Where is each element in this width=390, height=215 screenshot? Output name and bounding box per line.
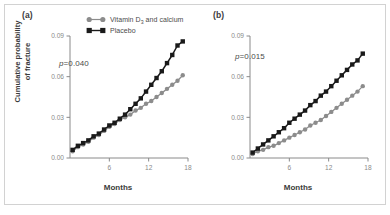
p-value-annotation-a: p=0.040 xyxy=(59,59,89,68)
legend-label-vitamin-d: Vitamin D3 and calcium xyxy=(110,16,184,23)
svg-text:0.03: 0.03 xyxy=(231,114,244,121)
x-axis-label-b: Months xyxy=(268,183,328,192)
svg-text:6: 6 xyxy=(107,164,111,171)
svg-text:12: 12 xyxy=(325,164,333,171)
svg-text:0.00: 0.00 xyxy=(51,154,64,161)
svg-text:0.00: 0.00 xyxy=(231,154,244,161)
svg-text:6: 6 xyxy=(287,164,291,171)
svg-text:0.06: 0.06 xyxy=(231,73,244,80)
panel-container: (a) Cumulative probability of fracture 0… xyxy=(0,0,390,215)
legend: Vitamin D3 and calcium Placebo xyxy=(86,14,184,36)
svg-text:0.09: 0.09 xyxy=(51,32,64,39)
circle-marker-icon xyxy=(86,15,106,24)
p-value-annotation-b: p=0.015 xyxy=(235,52,265,61)
figure-root: (a) Cumulative probability of fracture 0… xyxy=(0,0,390,215)
panel-a: (a) Cumulative probability of fracture 0… xyxy=(0,0,195,215)
svg-text:18: 18 xyxy=(364,164,372,171)
svg-text:0.03: 0.03 xyxy=(51,114,64,121)
panel-b: (b) 0.000.030.060.0961218 p=0.015 Months xyxy=(195,0,390,215)
legend-item-placebo: Placebo xyxy=(86,25,184,36)
svg-text:0.09: 0.09 xyxy=(231,32,244,39)
legend-label-placebo: Placebo xyxy=(110,27,136,34)
svg-text:0.06: 0.06 xyxy=(51,73,64,80)
svg-text:12: 12 xyxy=(145,164,153,171)
svg-text:18: 18 xyxy=(184,164,192,171)
legend-item-vitamin-d: Vitamin D3 and calcium xyxy=(86,14,184,25)
x-axis-label-a: Months xyxy=(88,183,148,192)
square-marker-icon xyxy=(86,26,106,35)
